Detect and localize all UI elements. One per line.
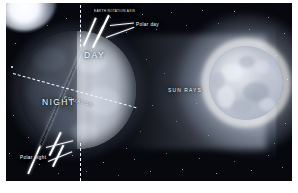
space-background: EQUATOR DAY NIGHT SUN RAYS Polar day Pol… bbox=[6, 3, 292, 181]
terminator-reference-line-top bbox=[80, 5, 81, 47]
night-label: NIGHT bbox=[42, 97, 75, 107]
terminator-reference-line-bottom bbox=[80, 143, 81, 181]
rotation-axis-label: EARTH ROTATION AXIS bbox=[94, 9, 135, 13]
sun-rays-label: SUN RAYS bbox=[168, 87, 202, 93]
polar-night-label: Polar night bbox=[20, 155, 46, 160]
sun-surface bbox=[209, 46, 283, 120]
sun bbox=[202, 39, 290, 127]
day-label: DAY bbox=[84, 50, 105, 60]
diagram-canvas: EQUATOR DAY NIGHT SUN RAYS Polar day Pol… bbox=[0, 0, 298, 193]
polar-day-label: Polar day bbox=[136, 22, 159, 27]
